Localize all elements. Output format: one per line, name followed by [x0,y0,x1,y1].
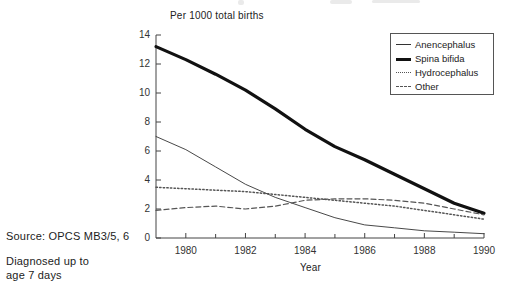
y-tick-label: 0 [132,232,150,243]
diagnosed-note: Diagnosed up to age 7 days [6,254,89,282]
x-tick-label: 1990 [467,245,501,256]
y-tick-label: 10 [132,87,150,98]
y-tick-label: 12 [132,58,150,69]
chart-figure: Per 1000 total births Year Anencephalus … [0,0,511,293]
legend-label: Hydrocephalus [415,67,478,78]
series-line-anencephalus [156,137,484,234]
legend-label: Anencephalus [415,39,475,50]
x-tick-label: 1984 [288,245,322,256]
legend-item-spina-bifida: Spina bifida [396,51,465,65]
line-sample-icon [396,53,411,63]
x-tick-label: 1980 [169,245,203,256]
x-tick-label: 1988 [407,245,441,256]
y-tick-label: 2 [132,203,150,214]
legend-label: Spina bifida [415,53,465,64]
y-tick-label: 8 [132,116,150,127]
legend-item-other: Other [396,79,439,93]
x-tick-label: 1982 [228,245,262,256]
line-sample-icon [396,67,411,77]
legend-label: Other [415,81,439,92]
y-tick-label: 4 [132,174,150,185]
chart-legend: Anencephalus Spina bifida Hydrocephalus … [390,33,494,95]
x-tick-label: 1986 [348,245,382,256]
line-sample-icon [396,39,411,49]
y-tick-label: 14 [132,29,150,40]
y-tick-label: 6 [132,145,150,156]
source-note: Source: OPCS MB3/5, 6 [6,229,129,243]
line-sample-icon [396,81,411,91]
legend-item-anencephalus: Anencephalus [396,37,475,51]
x-axis-title: Year [300,262,321,273]
legend-item-hydrocephalus: Hydrocephalus [396,65,478,79]
